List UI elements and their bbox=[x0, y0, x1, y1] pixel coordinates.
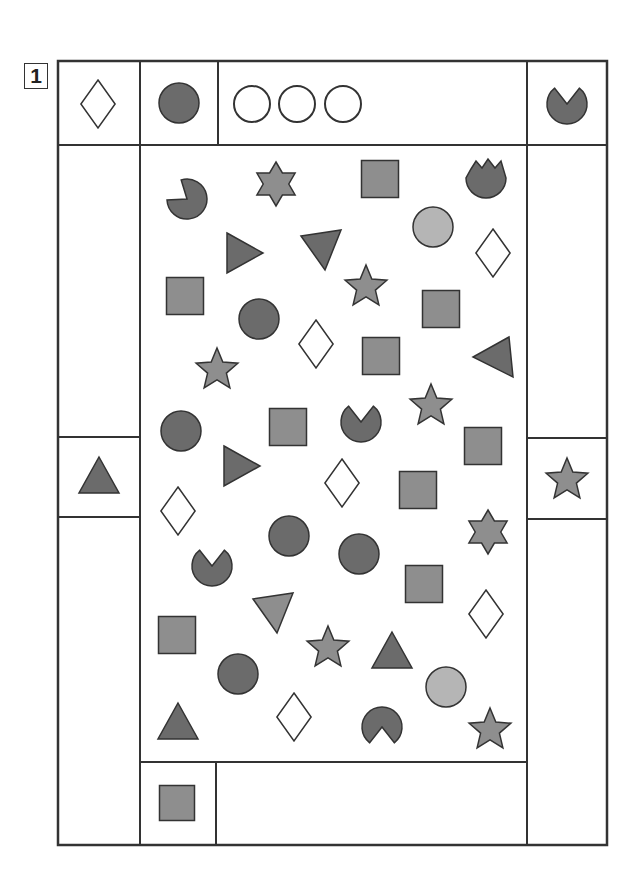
triangle-medium-icon bbox=[253, 593, 293, 633]
star6-medium-icon bbox=[257, 162, 295, 206]
pacman-dark-icon bbox=[362, 707, 402, 743]
triangle-dark-icon bbox=[227, 233, 263, 273]
triangle-dark-icon bbox=[473, 337, 513, 377]
clue-top-left-diamond-icon bbox=[81, 80, 115, 128]
circle-dark-icon bbox=[239, 299, 279, 339]
clue-left-middle-triangle-up-icon bbox=[79, 457, 119, 493]
square-medium-icon bbox=[362, 161, 399, 198]
shape-field bbox=[158, 159, 513, 748]
diamond-white-icon bbox=[469, 590, 503, 638]
pacman-dark-icon bbox=[192, 550, 232, 586]
square-medium-icon bbox=[406, 566, 443, 603]
puzzle-board bbox=[0, 0, 640, 896]
circle-light-icon bbox=[413, 207, 453, 247]
circle-dark-icon bbox=[269, 516, 309, 556]
triangle-dark-icon bbox=[158, 703, 198, 739]
clue-top-wide-1-circle-icon bbox=[234, 86, 270, 122]
square-medium-icon bbox=[167, 278, 204, 315]
square-medium-icon bbox=[423, 291, 460, 328]
clue-right-middle-star5-icon bbox=[546, 458, 588, 498]
star5-medium-icon bbox=[469, 708, 511, 748]
grid-frame bbox=[58, 61, 607, 845]
diamond-white-icon bbox=[325, 459, 359, 507]
clue-cells bbox=[79, 80, 588, 820]
clue-top-wide-3-circle-icon bbox=[325, 86, 361, 122]
tulip-dark-icon bbox=[466, 159, 506, 198]
diamond-white-icon bbox=[161, 487, 195, 535]
diamond-white-icon bbox=[299, 320, 333, 368]
pacman-dark-icon bbox=[341, 406, 381, 442]
circle-dark-icon bbox=[339, 534, 379, 574]
square-medium-icon bbox=[363, 338, 400, 375]
circle-dark-icon bbox=[218, 654, 258, 694]
square-medium-icon bbox=[465, 428, 502, 465]
triangle-dark-icon bbox=[372, 632, 412, 668]
square-medium-icon bbox=[270, 409, 307, 446]
circle-light-icon bbox=[426, 667, 466, 707]
triangle-dark-icon bbox=[301, 230, 341, 270]
clue-top-second-circle-icon bbox=[159, 83, 199, 123]
star5-medium-icon bbox=[345, 265, 387, 305]
star5-medium-icon bbox=[196, 348, 238, 388]
diamond-white-icon bbox=[277, 693, 311, 741]
circle-dark-icon bbox=[161, 411, 201, 451]
pacman-dark-icon bbox=[167, 179, 207, 219]
star5-medium-icon bbox=[410, 384, 452, 424]
clue-top-wide-2-circle-icon bbox=[279, 86, 315, 122]
square-medium-icon bbox=[400, 472, 437, 509]
clue-top-right-pacman-up-icon bbox=[547, 88, 587, 124]
star5-medium-icon bbox=[307, 626, 349, 666]
star6-medium-icon bbox=[469, 510, 507, 554]
diamond-white-icon bbox=[476, 229, 510, 277]
clue-bottom-left-square-icon bbox=[160, 786, 195, 821]
square-medium-icon bbox=[159, 617, 196, 654]
triangle-dark-icon bbox=[224, 446, 260, 486]
